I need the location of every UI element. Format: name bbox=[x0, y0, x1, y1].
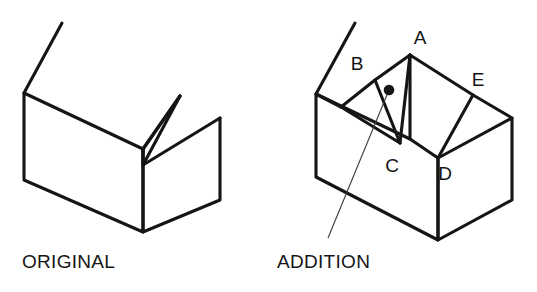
vertex-label-e: E bbox=[472, 69, 485, 90]
vertex-label-d: D bbox=[438, 163, 452, 184]
addition-marker-dot bbox=[384, 85, 395, 96]
house-addition-diagram: ORIGINAL ADDITION A B C D E bbox=[0, 0, 537, 292]
original-caption: ORIGINAL bbox=[22, 251, 115, 272]
vertex-label-a: A bbox=[414, 27, 427, 48]
vertex-label-b: B bbox=[351, 53, 364, 74]
vertex-label-c: C bbox=[385, 155, 399, 176]
diagram-background bbox=[0, 0, 537, 292]
addition-caption: ADDITION bbox=[277, 251, 370, 272]
